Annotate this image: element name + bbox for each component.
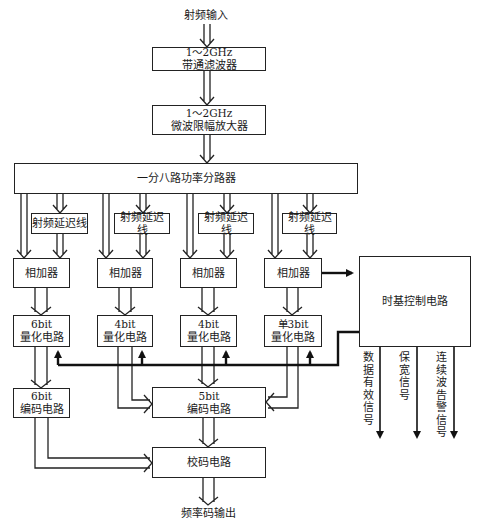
encoder-6bit: 6bit 编码电路 <box>13 388 70 418</box>
power-splitter-block: 一分八路功率分路器 <box>14 163 358 194</box>
arrow-splitter-delay-1 <box>53 194 67 213</box>
delay-line-label: 射频延迟线 <box>32 217 87 230</box>
delay-line-4: 射频延迟线 <box>282 213 337 234</box>
arrow-enc5-check <box>199 418 218 447</box>
output-label: 频率码输出 <box>181 507 236 520</box>
arrow-delay-adder-4 <box>303 234 317 258</box>
arrow-adder-quant-2 <box>115 288 135 315</box>
bandpass-range: 1～2GHz <box>186 46 232 59</box>
arrow-splitter-adder-4 <box>268 194 282 258</box>
arrow-bandpass-amp <box>200 71 214 105</box>
quantizer-label: 量化电路 <box>271 331 315 344</box>
adder-4: 相加器 <box>264 258 322 288</box>
amplifier-label: 微波限幅放大器 <box>171 120 248 133</box>
arrow-adder-quant-4 <box>283 288 302 315</box>
quantizer-1: 6bit 量化电路 <box>13 315 70 347</box>
input-label: 射频输入 <box>184 9 228 22</box>
delay-line-2: 射频延迟线 <box>114 213 170 234</box>
adder-1: 相加器 <box>13 258 70 288</box>
adder-2: 相加器 <box>97 258 153 288</box>
quantizer-label: 量化电路 <box>187 331 231 344</box>
amplifier-block: 1～2GHz 微波限幅放大器 <box>152 105 266 135</box>
quantizer-label: 量化电路 <box>103 331 147 344</box>
arrow-check-output <box>199 478 218 505</box>
quantizer-bits: 4bit <box>115 318 136 331</box>
delay-line-3: 射频延迟线 <box>198 213 254 234</box>
delay-line-label: 射频延迟线 <box>283 211 336 237</box>
signal-cw-alarm-label: 连续波告警信号 <box>434 351 446 439</box>
arrow-splitter-adder-3 <box>183 194 197 258</box>
arrow-input-bandpass <box>200 24 214 47</box>
quantizer-label: 量化电路 <box>20 331 64 344</box>
arrow-adder-quant-3 <box>198 288 218 315</box>
quantizer-bits: 4bit <box>198 318 219 331</box>
adder-label: 相加器 <box>109 267 142 280</box>
arrow-quant2-enc5 <box>118 347 152 413</box>
encoder-5bit: 5bit 编码电路 <box>152 387 266 418</box>
quantizer-3: 4bit 量化电路 <box>180 315 237 347</box>
bandpass-label: 带通滤波器 <box>182 59 237 72</box>
splitter-label: 一分八路功率分路器 <box>137 172 236 185</box>
encoder-bits: 6bit <box>31 390 52 403</box>
delay-line-1: 射频延迟线 <box>31 213 88 234</box>
arrow-delay-adder-2 <box>136 234 150 258</box>
arrow-amp-splitter <box>200 135 214 163</box>
quantizer-bits: 单3bit <box>278 318 309 331</box>
arrow-delay-adder-3 <box>220 234 234 258</box>
signal-data-valid-label: 数据有效信号 <box>361 351 373 426</box>
amplifier-range: 1～2GHz <box>186 107 232 120</box>
arrow-adder-quant-1 <box>31 288 51 315</box>
check-code-label: 校码电路 <box>187 456 231 469</box>
timing-control-block: 时基控制电路 <box>359 256 471 347</box>
encoder-label: 编码电路 <box>187 403 231 416</box>
adder-label: 相加器 <box>25 267 58 280</box>
encoder-label: 编码电路 <box>20 403 64 416</box>
quantizer-2: 4bit 量化电路 <box>97 315 153 347</box>
adder-3: 相加器 <box>180 258 237 288</box>
delay-line-label: 射频延迟线 <box>115 211 169 237</box>
arrow-quant3-enc5 <box>198 347 218 387</box>
arrow-delay-adder-1 <box>53 234 67 258</box>
encoder-bits: 5bit <box>199 390 220 403</box>
arrow-enc6-check <box>35 418 152 472</box>
arrow-quant1-enc6 <box>31 347 51 388</box>
arrow-quant4-enc5 <box>266 347 298 411</box>
bandpass-filter-block: 1～2GHz 带通滤波器 <box>152 47 266 71</box>
timing-control-label: 时基控制电路 <box>382 295 448 308</box>
adder-label: 相加器 <box>192 267 225 280</box>
signal-pulse-width-label: 保宽信号 <box>397 351 409 401</box>
quantizer-bits: 6bit <box>31 318 52 331</box>
arrow-splitter-adder-1 <box>17 194 31 258</box>
delay-line-label: 射频延迟线 <box>199 211 253 237</box>
arrow-splitter-adder-2 <box>99 194 113 258</box>
adder-label: 相加器 <box>277 267 310 280</box>
check-code-block: 校码电路 <box>152 447 266 478</box>
quantizer-4: 单3bit 量化电路 <box>264 315 322 347</box>
